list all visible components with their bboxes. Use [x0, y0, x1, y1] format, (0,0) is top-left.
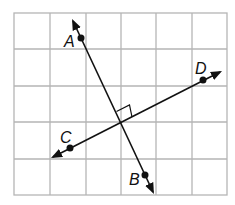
line-ab [73, 21, 153, 192]
label-c: C [60, 129, 72, 146]
line-cd [53, 72, 220, 157]
label-b: B [129, 171, 140, 188]
label-a: A [63, 33, 75, 50]
point-a [78, 35, 85, 42]
point-b [142, 172, 149, 179]
perpendicular-lines-diagram: A B C D [0, 0, 235, 205]
grid [14, 13, 227, 195]
point-d [200, 77, 207, 84]
label-d: D [195, 60, 207, 77]
right-angle-marker [117, 105, 133, 117]
